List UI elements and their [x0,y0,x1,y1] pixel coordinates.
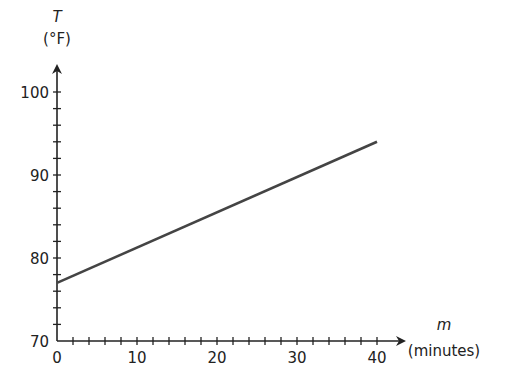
x-axis-label: m [437,316,452,334]
x-tick-label: 10 [127,349,146,367]
x-tick-label: 40 [367,349,386,367]
y-tick-label: 100 [20,84,49,102]
x-tick-label: 0 [52,349,62,367]
series-line [57,142,377,283]
y-axis-unit: (°F) [43,30,71,48]
y-axis-label: T [52,8,63,26]
y-tick-label: 80 [30,250,49,268]
line-chart: 708090100 010203040 T (°F) m (minutes) [0,0,510,386]
data-series [57,142,377,283]
x-axis: 010203040 [52,337,404,367]
y-axis: 708090100 [20,66,61,351]
x-tick-label: 30 [287,349,306,367]
x-tick-label: 20 [207,349,226,367]
x-axis-unit: (minutes) [408,342,480,360]
y-tick-label: 90 [30,167,49,185]
y-tick-label: 70 [30,333,49,351]
